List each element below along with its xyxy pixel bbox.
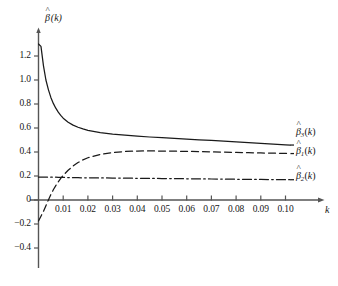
y-axis-arrow (36, 28, 40, 34)
y-tick-label: 1.2 (0, 50, 31, 60)
ticks-group (34, 56, 286, 248)
y-tick-label: −0.4 (0, 242, 31, 252)
y-tick-label: 0 (0, 194, 31, 204)
y-axis-title: ^β (k) (45, 12, 62, 23)
curve-beta2 (39, 177, 291, 180)
curve-beta3 (39, 44, 291, 145)
axes-group (30, 28, 325, 269)
y-tick-label: 1.0 (0, 74, 31, 84)
y-tick-label: 0.8 (0, 98, 31, 108)
curve-label-beta2: ^β2(k) (296, 170, 316, 181)
chart-figure: ^β (k) k 1.21.00.80.60.40.20−0.2−0.4 0.0… (0, 0, 338, 286)
y-tick-label: 0.2 (0, 170, 31, 180)
curves-group (39, 44, 295, 221)
y-tick-label: −0.2 (0, 218, 31, 228)
x-axis-arrow (318, 198, 325, 203)
curve-label-beta3: ^β3(k) (296, 126, 316, 137)
x-tick-label: 0.10 (269, 204, 303, 214)
y-tick-label: 0.6 (0, 122, 31, 132)
curve-label-beta1: ^β1(k) (296, 145, 316, 156)
plot-area (0, 0, 338, 286)
y-tick-label: 0.4 (0, 146, 31, 156)
x-axis-title: k (325, 204, 329, 215)
